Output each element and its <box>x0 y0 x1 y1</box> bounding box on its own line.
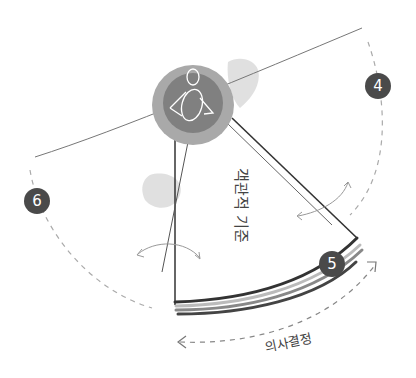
dashed-arc-left <box>30 170 152 308</box>
badge-4-number: 4 <box>373 77 383 95</box>
wedge-label: 객관적 기준 <box>232 168 250 243</box>
rotate-arrow-left <box>138 244 200 258</box>
diagram-canvas: 4 5 6 객관적 기준 의사결정 <box>0 0 416 378</box>
arc-label: 의사결정 <box>264 330 314 355</box>
badge-5: 5 <box>319 251 345 277</box>
center-circle <box>152 65 234 145</box>
rotate-arrow-left-tips <box>137 249 200 259</box>
badge-4: 4 <box>365 73 391 99</box>
badge-6-number: 6 <box>32 192 42 210</box>
arrow-head-right <box>367 262 376 272</box>
dashed-arc-right <box>350 42 382 215</box>
badge-5-number: 5 <box>327 255 337 273</box>
badge-6: 6 <box>24 188 50 214</box>
